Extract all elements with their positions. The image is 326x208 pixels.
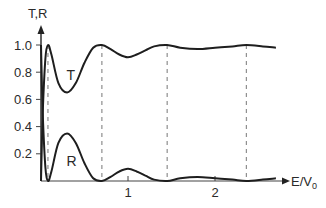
y-tick-label: 0.8 (14, 65, 32, 80)
resonance-lines (48, 45, 246, 181)
y-tick-label: 0.4 (14, 119, 32, 134)
y-axis-label: T,R (28, 6, 48, 21)
y-tick-label: 1.0 (14, 38, 32, 53)
x-axis-label: E/V0 (291, 174, 317, 191)
y-tick-label: 0.2 (14, 146, 32, 161)
x-axis-arrow-icon (282, 178, 290, 185)
y-tick-label: 0.6 (14, 92, 32, 107)
x-tick-label: 2 (211, 185, 218, 200)
series-label-r: R (66, 153, 76, 169)
x-tick-label: 1 (124, 185, 131, 200)
transmission-reflection-chart: 0.20.40.60.81.012 T,R E/V0 T R (0, 0, 326, 208)
series-label-t: T (66, 67, 75, 83)
y-axis-arrow-icon (38, 25, 45, 34)
